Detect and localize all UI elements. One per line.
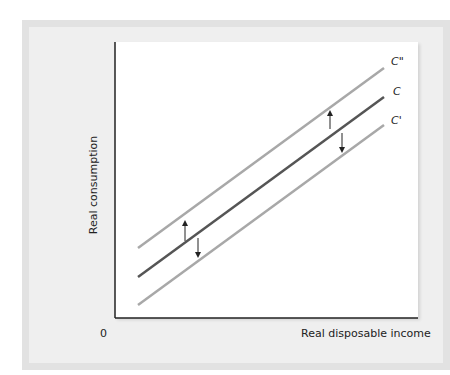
origin-label: 0 [100, 327, 107, 340]
label-c-double-prime: C" [391, 55, 404, 68]
label-c: C [393, 85, 401, 98]
y-axis-label: Real consumption [87, 136, 100, 234]
chart-svg [0, 0, 450, 375]
curve-c-double-prime [138, 68, 384, 248]
x-axis-label: Real disposable income [301, 327, 431, 340]
label-c-prime: C' [391, 114, 402, 127]
curve-c [138, 97, 384, 277]
curve-c-prime [138, 125, 384, 305]
